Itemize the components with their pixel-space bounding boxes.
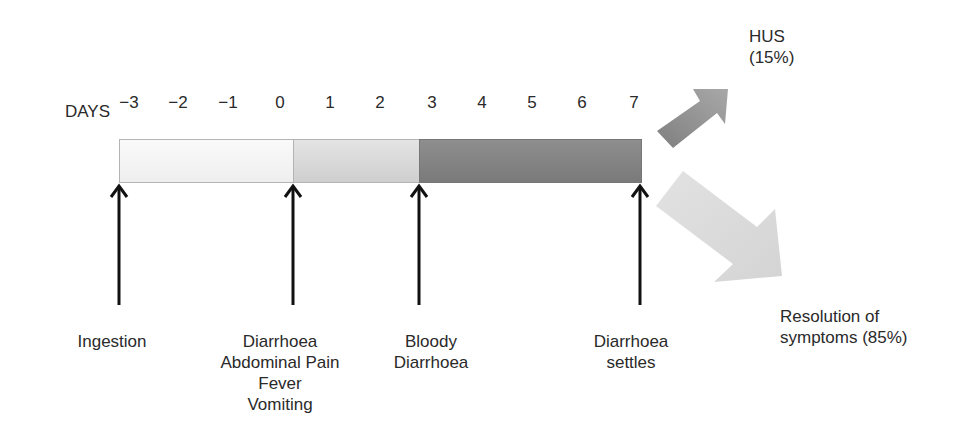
event-arrow-ingestion [111, 186, 127, 305]
outcome-label-hus: HUS (15%) [749, 26, 794, 68]
event-label-line: Diarrhoea [394, 352, 469, 373]
event-arrow-diarrhoea-onset [285, 186, 301, 305]
event-arrow-diarrhoea-settles [632, 186, 648, 305]
event-label-line: Vomiting [220, 394, 339, 415]
outcome-label-line: symptoms (85%) [780, 327, 908, 348]
hus-outcome-arrow-icon [657, 89, 728, 148]
event-label-line: Ingestion [78, 331, 147, 352]
diagram-arrows [0, 0, 977, 446]
event-label-line: settles [594, 352, 669, 373]
outcome-label-line: (15%) [749, 47, 794, 68]
event-label-diarrhoea-settles: Diarrhoea settles [594, 331, 669, 373]
outcome-label-resolution: Resolution of symptoms (85%) [780, 306, 908, 348]
event-label-line: Diarrhoea [594, 331, 669, 352]
outcome-label-line: Resolution of [780, 306, 908, 327]
resolution-outcome-arrow-icon [656, 171, 782, 282]
event-label-diarrhoea-onset: Diarrhoea Abdominal Pain Fever Vomiting [220, 331, 339, 415]
event-label-line: Diarrhoea [220, 331, 339, 352]
event-label-bloody-diarrhoea: Bloody Diarrhoea [394, 331, 469, 373]
event-arrow-bloody-diarrhoea [411, 186, 427, 305]
event-label-line: Bloody [394, 331, 469, 352]
event-label-ingestion: Ingestion [78, 331, 147, 352]
event-label-line: Abdominal Pain [220, 352, 339, 373]
outcome-label-line: HUS [749, 26, 794, 47]
event-label-line: Fever [220, 373, 339, 394]
